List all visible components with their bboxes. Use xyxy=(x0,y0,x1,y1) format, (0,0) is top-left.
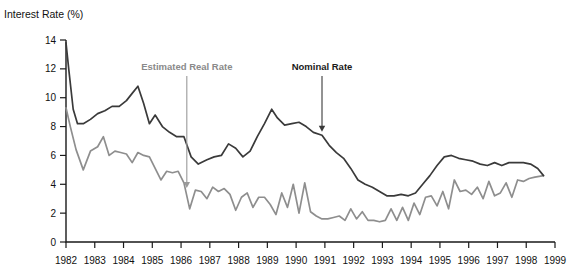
interest-rate-chart: Interest Rate (%) 02468101214 1982198319… xyxy=(0,0,582,275)
x-tick-label: 1988 xyxy=(227,255,250,266)
y-tick-label: 4 xyxy=(50,179,56,190)
x-tick-label: 1983 xyxy=(84,255,107,266)
x-tick-label: 1992 xyxy=(343,255,366,266)
y-tick-label: 10 xyxy=(45,92,57,103)
x-tick-label: 1989 xyxy=(256,255,279,266)
x-tick-label: 1982 xyxy=(55,255,78,266)
x-tick-label: 1986 xyxy=(170,255,193,266)
x-tick-label: 1993 xyxy=(371,255,394,266)
y-tick-label: 12 xyxy=(45,63,57,74)
x-tick-label: 1998 xyxy=(515,255,538,266)
x-tick-label: 1984 xyxy=(112,255,135,266)
y-tick-label: 6 xyxy=(50,150,56,161)
x-tick-label: 1997 xyxy=(486,255,509,266)
x-tick-label: 1994 xyxy=(400,255,423,266)
x-tick-label: 1991 xyxy=(314,255,337,266)
x-tick-label: 1990 xyxy=(285,255,308,266)
x-tick-label: 1999 xyxy=(544,255,567,266)
annotation-label-nominal-rate: Nominal Rate xyxy=(292,61,353,72)
annotation-label-estimated-real-rate: Estimated Real Rate xyxy=(141,61,232,72)
y-tick-label: 8 xyxy=(50,121,56,132)
y-tick-label: 0 xyxy=(50,237,56,248)
y-axis-title: Interest Rate (%) xyxy=(4,8,83,20)
chart-background xyxy=(0,0,582,275)
x-tick-label: 1996 xyxy=(458,255,481,266)
y-tick-label: 14 xyxy=(45,35,57,46)
y-tick-label: 2 xyxy=(50,208,56,219)
x-tick-label: 1987 xyxy=(199,255,222,266)
x-tick-label: 1985 xyxy=(141,255,164,266)
x-tick-label: 1995 xyxy=(429,255,452,266)
